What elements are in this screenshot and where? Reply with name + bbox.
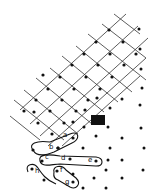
scatter-dot — [105, 169, 108, 172]
scatter-dot — [138, 28, 141, 31]
lattice-dot — [70, 63, 73, 66]
group-dot-g — [71, 180, 74, 183]
group-label-h: h — [35, 167, 39, 175]
lattice-dot — [62, 121, 65, 124]
lattice-dot — [84, 75, 87, 78]
group-dot-f — [55, 169, 58, 172]
lattice-dot — [86, 98, 89, 101]
lattice-dot — [34, 98, 37, 101]
group-label-e: e — [88, 156, 92, 164]
group-dot-e — [94, 159, 97, 162]
lattice-dot — [74, 109, 77, 112]
lattice-dot — [36, 121, 39, 124]
lattice-dot — [121, 40, 124, 43]
scatter-dots — [43, 28, 146, 190]
lattice-dot — [72, 87, 75, 90]
lattice-dot — [83, 108, 86, 111]
lattice-dot — [46, 87, 49, 90]
scatter-dot — [82, 187, 85, 190]
scatter-dot — [143, 147, 146, 150]
scatter-dot — [93, 177, 96, 180]
group-dot-c — [40, 159, 43, 162]
group-label-a: a — [63, 131, 67, 139]
lattice-dot — [50, 132, 53, 135]
group-dot-b — [56, 146, 59, 149]
scatter-dot — [139, 104, 142, 107]
lattice-dot — [60, 98, 63, 101]
lattice-dot — [48, 109, 51, 112]
lattice-dot — [108, 52, 111, 55]
lattice-dots — [22, 28, 137, 151]
lattice-dot — [32, 110, 35, 113]
scatter-dot — [139, 48, 142, 51]
lattice-dot — [96, 63, 99, 66]
group-dot-h — [30, 167, 33, 170]
scatter-dot — [83, 126, 86, 129]
lattice-dot — [107, 28, 110, 31]
scatter-dot — [142, 169, 145, 172]
loop-h — [27, 165, 56, 184]
lattice-dot — [82, 52, 85, 55]
group-label-d: d — [61, 154, 65, 162]
scatter-dot — [43, 179, 46, 182]
lattice-dot — [58, 75, 61, 78]
lattice-dot — [22, 109, 25, 112]
lattice-dot — [122, 63, 125, 66]
scatter-dot — [140, 68, 143, 71]
lattice-diagram: abcdefgh — [0, 0, 162, 196]
group-label-b: b — [49, 143, 54, 151]
lattice-dot — [95, 96, 98, 99]
group-dot-a — [71, 136, 74, 139]
lattice-dot — [98, 87, 101, 90]
group-label-c: c — [45, 153, 49, 161]
scatter-dot — [109, 147, 112, 150]
scatter-dot — [121, 177, 124, 180]
scatter-dot — [95, 135, 98, 138]
scatter-dot — [141, 87, 144, 90]
scatter-dot — [107, 126, 110, 129]
lattice-dot — [134, 52, 137, 55]
loop-cde — [40, 155, 102, 166]
scatter-dot — [121, 137, 124, 140]
lattice-grid-lines — [10, 14, 148, 146]
group-dot-d — [68, 157, 71, 160]
lattice-dot — [94, 40, 97, 43]
lattice-dot — [71, 120, 74, 123]
scatter-dot — [82, 147, 85, 150]
scatter-dot — [105, 187, 108, 190]
lattice-dot — [110, 75, 113, 78]
scatter-dot — [121, 98, 124, 101]
scatter-dot — [121, 159, 124, 162]
black-block — [91, 115, 105, 125]
scatter-dot — [109, 107, 112, 110]
group-label-g: g — [65, 178, 69, 186]
lattice-dot — [41, 73, 44, 76]
scatter-dot — [140, 127, 143, 130]
scatter-dot — [107, 159, 110, 162]
loop-ab — [32, 133, 78, 155]
